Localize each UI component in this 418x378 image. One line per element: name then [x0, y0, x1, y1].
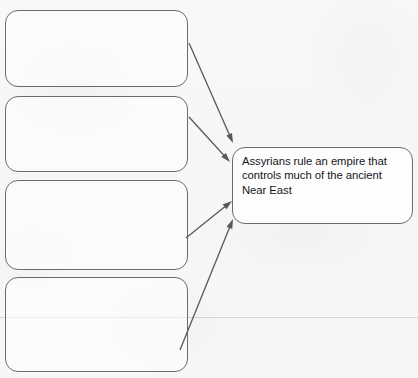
- arrow-head-4: [227, 219, 233, 229]
- arrow-from-box-2: [189, 117, 230, 162]
- blank-box-4[interactable]: [5, 277, 188, 372]
- answer-box[interactable]: Assyrians rule an empire that controls m…: [232, 147, 413, 224]
- graphic-organizer-canvas: Assyrians rule an empire that controls m…: [0, 0, 418, 378]
- arrow-head-1: [226, 133, 233, 143]
- arrow-line-1: [189, 43, 230, 137]
- blank-box-2[interactable]: [5, 96, 188, 172]
- answer-box-text: Assyrians rule an empire that controls m…: [242, 154, 404, 197]
- arrow-line-3: [186, 205, 227, 238]
- arrow-head-2: [221, 153, 230, 162]
- arrow-line-2: [189, 117, 226, 157]
- blank-box-3[interactable]: [5, 180, 188, 270]
- arrow-head-3: [223, 201, 232, 209]
- blank-box-1[interactable]: [5, 10, 188, 87]
- arrow-from-box-1: [189, 43, 233, 143]
- arrow-from-box-3: [186, 201, 232, 238]
